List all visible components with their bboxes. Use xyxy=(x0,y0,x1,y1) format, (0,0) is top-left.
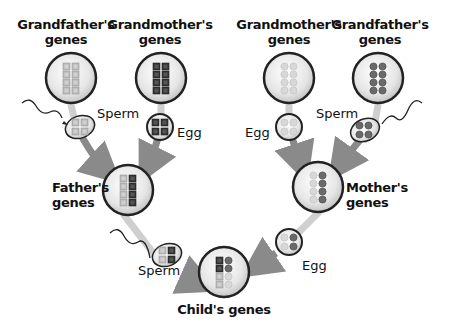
mgm-egg-cell xyxy=(276,114,302,140)
mother-label: Mother's genes xyxy=(346,180,408,210)
pg-sperm-cell xyxy=(62,112,98,143)
maternal-grandfather-circle xyxy=(353,53,403,103)
paternal-grandmother-label: Grandmother's genes xyxy=(100,17,220,47)
mother-egg-label: Egg xyxy=(302,258,327,273)
child-label: Child's genes xyxy=(164,302,284,317)
mother-egg-cell xyxy=(276,229,302,255)
maternal-grandfather-label: Grandfather's genes xyxy=(320,17,440,47)
child-circle xyxy=(199,247,249,297)
paternal-grandmother-circle xyxy=(136,53,186,103)
father-label: Father's genes xyxy=(52,180,109,210)
mother-circle xyxy=(293,162,343,212)
mgm-egg-label: Egg xyxy=(245,125,270,140)
maternal-grandmother-circle xyxy=(264,53,314,103)
pg-sperm-label: Sperm xyxy=(97,106,139,121)
pgm-egg-cell xyxy=(147,114,173,140)
father-circle xyxy=(103,165,153,215)
gene-inheritance-diagram xyxy=(0,0,449,329)
mg-sperm-label: Sperm xyxy=(316,106,358,121)
paternal-grandfather-circle xyxy=(46,53,96,103)
pgm-egg-label: Egg xyxy=(177,125,202,140)
father-sperm-label: Sperm xyxy=(138,263,180,278)
